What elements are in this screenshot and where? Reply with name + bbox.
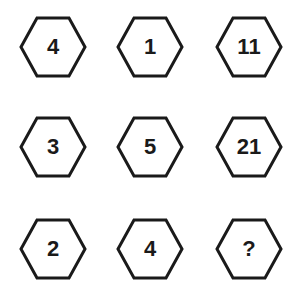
hexagon-value: 11 xyxy=(215,16,283,78)
hexagon-r3c1: 2 xyxy=(19,218,87,280)
hexagon-value: 21 xyxy=(215,116,283,178)
hexagon-value: 5 xyxy=(116,116,184,178)
hexagon-r2c1: 3 xyxy=(19,116,87,178)
hexagon-value: 4 xyxy=(116,218,184,280)
hexagon-value: 2 xyxy=(19,218,87,280)
hexagon-r2c3: 21 xyxy=(215,116,283,178)
hexagon-r1c2: 1 xyxy=(116,16,184,78)
hexagon-r3c3: ? xyxy=(215,218,283,280)
hexagon-r1c3: 11 xyxy=(215,16,283,78)
hexagon-value: 1 xyxy=(116,16,184,78)
hexagon-value-unknown: ? xyxy=(215,218,283,280)
hexagon-r2c2: 5 xyxy=(116,116,184,178)
hexagon-value: 4 xyxy=(19,16,87,78)
hexagon-r1c1: 4 xyxy=(19,16,87,78)
hexagon-r3c2: 4 xyxy=(116,218,184,280)
hexagon-value: 3 xyxy=(19,116,87,178)
